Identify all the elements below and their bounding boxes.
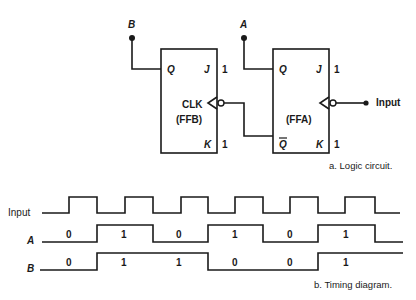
- caption-logic-circuit: a. Logic circuit.: [329, 160, 392, 171]
- ffb-clock-triangle-icon: [208, 97, 217, 109]
- ffa-clock-triangle-icon: [320, 97, 329, 109]
- input-label: Input: [376, 97, 401, 108]
- a-label: A: [239, 19, 247, 30]
- a-value: 1: [232, 229, 238, 240]
- timing-label-a: A: [26, 235, 34, 246]
- ffa-k-input: 1: [334, 139, 340, 150]
- a-value: 1: [121, 229, 127, 240]
- ffa-q-label: Q: [279, 64, 287, 75]
- a-waveform: [42, 225, 403, 242]
- ffb-q-label: Q: [167, 64, 175, 75]
- ffb-k-label: K: [204, 139, 212, 150]
- ffa-clock-bubble-icon: [330, 100, 336, 106]
- ffb-k-input: 1: [222, 139, 228, 150]
- ffb-j-input: 1: [222, 64, 228, 75]
- a-value: 0: [66, 229, 72, 240]
- ffa-k-label: K: [316, 139, 324, 150]
- b-output-wire: [132, 38, 161, 69]
- a-value: 0: [287, 229, 293, 240]
- b-value: 1: [121, 257, 127, 268]
- b-value: 1: [343, 257, 349, 268]
- caption-timing-diagram: b. Timing diagram.: [314, 279, 392, 290]
- input-waveform: [42, 197, 400, 213]
- ffb-clock-bubble-icon: [218, 100, 224, 106]
- b-value: 0: [287, 257, 293, 268]
- logic-diagram: B A Q J 1 CLK (FFB) K 1 Q J 1 (FFA) Q K …: [0, 0, 416, 300]
- ffa-name: (FFA): [286, 114, 312, 125]
- a-value: 1: [343, 229, 349, 240]
- a-value: 0: [176, 229, 182, 240]
- timing-label-b: B: [27, 263, 34, 274]
- ffa-qbar-label: Q: [279, 139, 287, 150]
- input-terminal-dot: [363, 100, 368, 105]
- qbar-to-clk-wire: [224, 103, 273, 136]
- ffa-j-label: J: [316, 64, 322, 75]
- timing-label-input: Input: [8, 207, 30, 218]
- a-output-wire: [244, 38, 273, 69]
- b-value: 1: [176, 257, 182, 268]
- b-value: 0: [66, 257, 72, 268]
- ffa-j-input: 1: [334, 64, 340, 75]
- ffb-name: (FFB): [176, 114, 202, 125]
- b-value: 0: [232, 257, 238, 268]
- ffb-j-label: J: [204, 64, 210, 75]
- b-label: B: [128, 19, 135, 30]
- ffb-clk-label: CLK: [182, 99, 203, 110]
